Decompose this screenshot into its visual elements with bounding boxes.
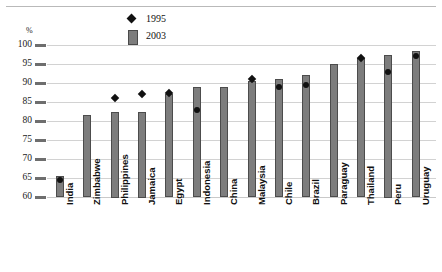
y-tick-mark-100 (35, 44, 46, 47)
bar-malaysia (248, 81, 256, 197)
y-tick-mark-60 (35, 196, 46, 199)
marker-1995-india (57, 177, 63, 183)
gridline-65 (47, 178, 436, 179)
marker-1995-peru (385, 69, 391, 75)
y-tick-mark-95 (35, 63, 46, 66)
legend-label-2003: 2003 (146, 30, 166, 41)
y-tick-label-75: 75 (8, 134, 32, 144)
gridline-70 (47, 159, 436, 160)
y-tick-mark-70 (35, 158, 46, 161)
bar-swatch-icon (128, 30, 138, 45)
gridline-95 (47, 64, 436, 65)
gridline-60 (47, 197, 436, 198)
y-tick-mark-65 (35, 177, 46, 180)
gridline-80 (47, 121, 436, 122)
x-axis-label-brazil: Brazil (310, 179, 321, 205)
y-tick-label-100: 100 (8, 39, 32, 49)
x-axis-label-chile: Chile (283, 182, 294, 205)
bar-philippines (111, 112, 119, 198)
y-tick-label-85: 85 (8, 96, 32, 106)
diamond-marker-icon (127, 14, 137, 24)
bar-uruguay (412, 51, 420, 197)
bar-brazil (302, 75, 310, 197)
y-axis-unit-label: % (26, 26, 33, 35)
marker-1995-chile (276, 84, 282, 90)
x-axis-label-jamaica: Jamaica (146, 167, 157, 205)
bar-paraguay (330, 64, 338, 197)
legend-label-1995: 1995 (146, 13, 166, 24)
bar-indonesia (193, 87, 201, 197)
y-tick-mark-90 (35, 82, 46, 85)
gridline-100 (47, 45, 436, 46)
x-axis-label-paraguay: Paraguay (338, 162, 349, 205)
marker-1995-indonesia (194, 107, 200, 113)
y-tick-label-65: 65 (8, 172, 32, 182)
x-axis-label-malaysia: Malaysia (256, 165, 267, 205)
y-tick-mark-85 (35, 101, 46, 104)
x-axis-label-philippines: Philippines (119, 154, 130, 205)
y-tick-label-80: 80 (8, 115, 32, 125)
chart-container: % 1009590858075706560 1995 2003 IndiaZim… (0, 0, 442, 272)
y-tick-label-60: 60 (8, 191, 32, 201)
top-divider-rule (6, 6, 436, 7)
x-axis-label-zimbabwe: Zimbabwe (91, 159, 102, 205)
gridline-85 (47, 102, 436, 103)
x-axis-label-peru: Peru (392, 184, 403, 205)
x-axis-label-egypt: Egypt (173, 179, 184, 205)
y-tick-mark-80 (35, 120, 46, 123)
y-tick-mark-75 (35, 139, 46, 142)
bar-chile (275, 79, 283, 197)
x-axis-label-thailand: Thailand (365, 166, 376, 205)
x-axis-label-india: India (64, 183, 75, 205)
bar-china (220, 87, 228, 197)
y-tick-label-90: 90 (8, 77, 32, 87)
gridline-75 (47, 140, 436, 141)
bar-jamaica (138, 112, 146, 198)
x-axis-label-indonesia: Indonesia (201, 161, 212, 205)
bar-peru (384, 55, 392, 198)
y-tick-label-70: 70 (8, 153, 32, 163)
x-axis-label-china: China (228, 179, 239, 205)
x-axis-label-uruguay: Uruguay (420, 166, 431, 205)
marker-1995-jamaica (138, 90, 146, 98)
bar-thailand (357, 58, 365, 197)
gridline-90 (47, 83, 436, 84)
y-tick-label-95: 95 (8, 58, 32, 68)
